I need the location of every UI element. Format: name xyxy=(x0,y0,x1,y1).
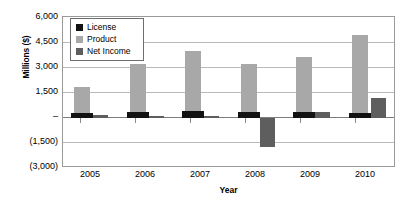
bar-group xyxy=(341,17,397,166)
y-axis-tick-label: 1,500 xyxy=(14,87,58,96)
bar-net-income xyxy=(260,118,275,147)
x-axis-title: Year xyxy=(62,185,395,195)
x-axis-tick-label: 2008 xyxy=(235,170,275,179)
bar-license xyxy=(127,112,149,118)
x-axis-tick-labels: 2005 2006 2007 2008 2009 2010 xyxy=(62,170,395,184)
legend-item-net-income: Net Income xyxy=(76,46,139,57)
legend: License Product Net Income xyxy=(70,18,144,61)
y-axis-tick-label: – xyxy=(14,112,58,121)
bar-license xyxy=(71,113,93,118)
bar-product xyxy=(130,64,146,118)
x-axis-tick-label: 2010 xyxy=(345,170,385,179)
x-axis-tick-label: 2007 xyxy=(180,170,220,179)
y-axis-tick-labels: 6,000 4,500 3,000 1,500 – (1,500) (3,000… xyxy=(12,0,58,201)
y-axis-tick-label: 4,500 xyxy=(14,37,58,46)
bar-chart: Millions ($) 6,000 4,500 3,000 1,500 – (… xyxy=(0,0,400,201)
bar-product xyxy=(352,35,368,117)
bar-group xyxy=(230,17,286,166)
bar-product xyxy=(185,51,201,117)
bar-net-income xyxy=(93,115,108,118)
y-axis-tick-label: (3,000) xyxy=(14,162,58,171)
legend-item-license: License xyxy=(76,22,139,33)
x-axis-tick-label: 2009 xyxy=(290,170,330,179)
y-axis-tick-label: (1,500) xyxy=(14,137,58,146)
x-axis-tick-label: 2006 xyxy=(125,170,165,179)
legend-item-label: Product xyxy=(87,35,116,44)
bar-license xyxy=(293,112,315,118)
bar-license xyxy=(238,112,260,118)
bar-net-income xyxy=(371,98,386,117)
bar-product xyxy=(241,64,257,118)
bar-net-income xyxy=(149,116,164,118)
y-axis-tick-label: 6,000 xyxy=(14,12,58,21)
legend-swatch-icon xyxy=(76,24,83,31)
y-axis-tick-label: 3,000 xyxy=(14,62,58,71)
legend-swatch-icon xyxy=(76,48,83,55)
legend-item-label: License xyxy=(87,23,116,32)
bar-net-income xyxy=(204,116,219,118)
bar-net-income xyxy=(315,112,330,118)
legend-item-product: Product xyxy=(76,34,139,45)
bar-product xyxy=(296,57,312,117)
bar-group xyxy=(285,17,341,166)
bar-group xyxy=(174,17,230,166)
legend-swatch-icon xyxy=(76,36,83,43)
bar-license xyxy=(349,113,371,118)
x-axis-tick-label: 2005 xyxy=(70,170,110,179)
bar-license xyxy=(182,111,204,117)
legend-item-label: Net Income xyxy=(87,47,130,56)
